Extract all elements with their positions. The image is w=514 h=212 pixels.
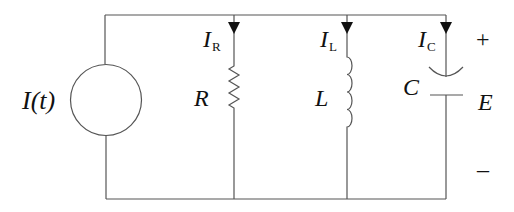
current-label-c-sub: C — [427, 39, 436, 54]
circuit-wires — [0, 0, 514, 212]
resistor-icon — [229, 15, 239, 199]
inductor-label: L — [315, 86, 328, 110]
current-label-r-sub: R — [212, 39, 221, 54]
voltage-plus-sign: + — [476, 27, 490, 51]
capacitor-label: C — [403, 75, 419, 99]
current-label-l-main: I — [320, 26, 328, 52]
current-label-l: IL — [320, 27, 337, 51]
voltage-minus-sign: – — [477, 157, 489, 181]
current-arrow-l-icon — [341, 22, 353, 34]
current-label-c-main: I — [418, 26, 426, 52]
current-label-r: IR — [203, 27, 221, 51]
current-source-icon — [71, 65, 142, 136]
current-arrow-c-icon — [440, 22, 452, 34]
inductor-icon — [347, 15, 352, 199]
resistor-label: R — [194, 86, 209, 110]
source-label: I(t) — [22, 88, 55, 114]
voltage-label: E — [478, 90, 493, 114]
circuit-diagram: I(t) IR R IL L IC C + E – — [0, 0, 514, 212]
current-label-r-main: I — [203, 26, 211, 52]
current-label-c: IC — [418, 27, 436, 51]
current-label-l-sub: L — [329, 39, 337, 54]
current-arrow-r-icon — [228, 22, 240, 34]
